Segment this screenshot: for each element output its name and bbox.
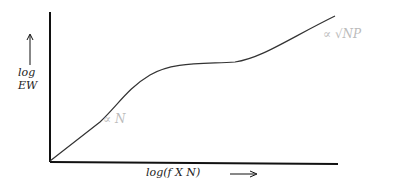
y-label-ew: EW — [18, 79, 37, 92]
annotation-sqrt: ∝ √NP — [323, 27, 361, 41]
annotation-linear: ∝ N — [103, 112, 125, 126]
x-axis — [50, 162, 338, 164]
y-label-log: log — [18, 66, 35, 79]
curve-of-growth — [50, 16, 335, 161]
x-label: log(f X N) — [146, 166, 200, 179]
